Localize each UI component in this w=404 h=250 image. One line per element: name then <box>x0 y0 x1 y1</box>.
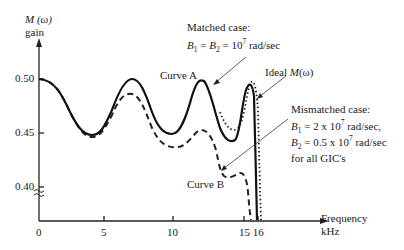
mismatched-b2: B2 = 0.5 x 107 rad/sec <box>291 136 387 149</box>
x-axis-unit: kHz <box>321 225 339 238</box>
mismatched-b1: B1 = 2 x 107 rad/sec, <box>291 120 381 133</box>
y-tick-label: 0.45 <box>15 126 34 139</box>
curve-b-label: Curve B <box>187 178 224 191</box>
curve-b-line <box>39 79 251 220</box>
x-tick-label: 5 <box>101 226 107 239</box>
y-axis-title: M (ω) <box>25 13 52 26</box>
x-tick-label: 10 <box>167 226 178 239</box>
ideal-label: Ideal M(ω) <box>265 66 313 79</box>
y-tick-label: 0.50 <box>15 72 34 85</box>
curve-a-label: Curve A <box>160 69 197 82</box>
matched-case-title: Matched case: <box>187 21 250 34</box>
x-tick-label: 15 16 <box>239 226 264 239</box>
ideal-leader-line <box>259 76 286 97</box>
y-axis-arrow-icon <box>36 38 42 47</box>
y-tick-label: 0.40 <box>15 180 34 193</box>
mismatched-note: for all GIC's <box>291 152 346 165</box>
y-axis-unit: gain <box>25 26 44 39</box>
mismatched-case-title: Mismatched case: <box>291 103 370 116</box>
matched-case-equation: B1 = B2 = 107 rad/sec <box>187 39 280 52</box>
curve-a-line <box>39 79 257 220</box>
matched-leader-line <box>215 57 246 83</box>
x-axis-title: Frequency <box>321 212 367 225</box>
x-tick-label: 0 <box>36 226 42 239</box>
